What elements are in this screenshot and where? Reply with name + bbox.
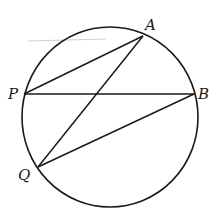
circle bbox=[22, 27, 198, 207]
point-label-b: B bbox=[197, 85, 209, 103]
segment-pa bbox=[24, 36, 143, 94]
point-label-q: Q bbox=[18, 166, 30, 184]
segment-qb bbox=[38, 94, 194, 167]
point-label-a: A bbox=[143, 16, 156, 34]
point-label-p: P bbox=[7, 85, 19, 103]
geometry-diagram: A P B Q bbox=[0, 0, 224, 211]
segment-aq bbox=[38, 36, 143, 167]
